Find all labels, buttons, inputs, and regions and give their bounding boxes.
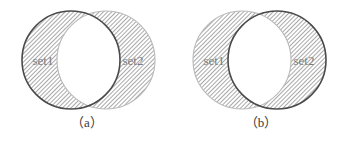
venn-diagram-b: set1 set2 bbox=[174, 0, 348, 118]
venn-panel-a: set1 set2 （a） bbox=[0, 0, 174, 150]
venn-figure: set1 set2 （a） bbox=[0, 0, 348, 150]
panel-b-caption: （b） bbox=[174, 112, 348, 131]
set1-label-b: set1 bbox=[204, 53, 225, 68]
set2-only-region-b bbox=[174, 0, 348, 118]
set2-only-region-a bbox=[0, 0, 174, 118]
set2-label-a: set2 bbox=[123, 53, 144, 68]
set2-label-b: set2 bbox=[294, 53, 315, 68]
venn-panel-b: set1 set2 （b） bbox=[174, 0, 348, 150]
set1-label-a: set1 bbox=[33, 53, 54, 68]
panel-a-caption: （a） bbox=[0, 112, 174, 131]
venn-diagram-a: set1 set2 bbox=[0, 0, 174, 118]
